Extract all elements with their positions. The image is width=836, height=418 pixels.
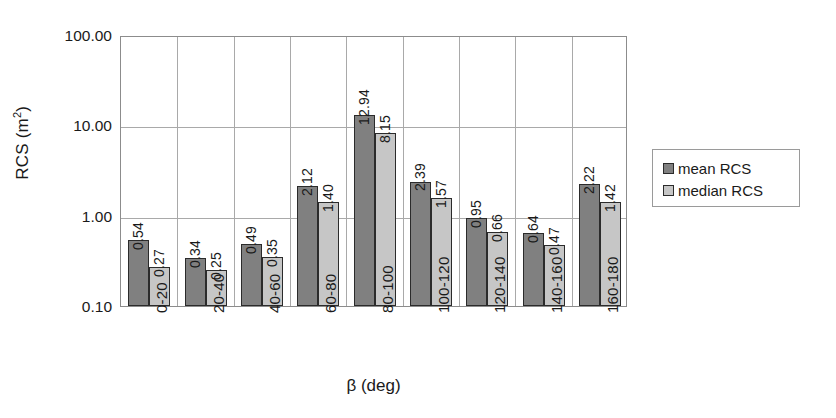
x-axis-tick-label: 120-140	[492, 257, 507, 313]
legend-label-median: median RCS	[678, 183, 763, 198]
y-axis-title-paren: )	[13, 106, 32, 112]
y-axis-title-text: RCS (m	[13, 118, 32, 180]
bar-data-label: 2.12	[300, 168, 314, 196]
bar-data-label: 2.22	[582, 166, 596, 194]
legend-label-mean: mean RCS	[678, 161, 751, 176]
vertical-gridline	[459, 37, 460, 306]
x-axis-tick-label: 60-80	[323, 274, 338, 313]
bar-mean[interactable]	[354, 115, 375, 306]
y-axis-tick-labels: 100.0010.001.000.10	[34, 0, 112, 418]
y-axis-tick-label: 10.00	[34, 118, 112, 133]
legend-entry-mean[interactable]: mean RCS	[663, 157, 799, 179]
x-axis-tick-label: 80-100	[380, 265, 395, 313]
bar-data-label: 0.95	[469, 200, 483, 228]
x-axis-tick-label: 100-120	[436, 257, 451, 313]
vertical-gridline	[572, 37, 573, 306]
bar-data-label: 0.54	[131, 222, 145, 250]
vertical-gridline	[177, 37, 178, 306]
bar-data-label: 8.15	[378, 115, 392, 143]
legend-swatch-mean-icon	[663, 163, 674, 174]
x-axis-tick-label: 0-20	[154, 282, 169, 313]
bar-data-label: 0.35	[265, 239, 279, 267]
x-axis-tick-label: 160-180	[605, 257, 620, 313]
vertical-gridline	[403, 37, 404, 306]
vertical-gridline	[346, 37, 347, 306]
y-axis-tick-label: 1.00	[34, 209, 112, 224]
y-axis-title-superscript: 2	[11, 112, 23, 118]
bar-data-label: 12.94	[357, 89, 371, 125]
bar-data-label: 2.39	[413, 163, 427, 191]
bar-data-label: 0.64	[526, 215, 540, 243]
vertical-gridline	[234, 37, 235, 306]
legend-swatch-median-icon	[663, 185, 674, 196]
bar-data-label: 0.66	[490, 214, 504, 242]
bar-data-label: 1.42	[603, 184, 617, 212]
bar-mean[interactable]	[523, 233, 544, 306]
vertical-gridline	[515, 37, 516, 306]
bar-mean[interactable]	[579, 184, 600, 306]
bar-data-label: 0.27	[152, 249, 166, 277]
y-axis-tick-label: 100.00	[34, 28, 112, 43]
legend-entry-median[interactable]: median RCS	[663, 179, 799, 201]
y-axis-title: RCS (m2)	[11, 73, 33, 213]
bar-mean[interactable]	[297, 186, 318, 306]
bar-data-label: 1.57	[434, 180, 448, 208]
bar-data-label: 0.34	[188, 240, 202, 268]
bar-mean[interactable]	[466, 218, 487, 306]
x-axis-tick-label: 20-40	[211, 274, 226, 313]
bar-data-label: 1.40	[321, 184, 335, 212]
x-axis-tick-label: 40-60	[267, 274, 282, 313]
legend: mean RCS median RCS	[652, 149, 800, 207]
x-axis-title: β (deg)	[120, 376, 627, 396]
bar-data-label: 0.47	[547, 227, 561, 255]
bar-data-label: 0.49	[244, 226, 258, 254]
bar-mean[interactable]	[410, 182, 431, 307]
x-axis-tick-label: 140-160	[549, 257, 564, 313]
y-axis-tick-label: 0.10	[34, 299, 112, 314]
vertical-gridline	[290, 37, 291, 306]
rcs-bar-chart: RCS (m2) 100.0010.001.000.10 0.540.270.3…	[0, 0, 836, 418]
